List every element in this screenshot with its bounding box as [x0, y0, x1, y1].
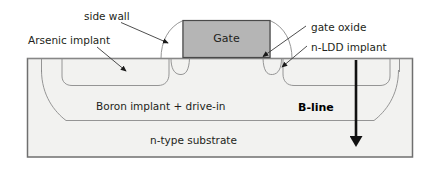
side-wall-label: side wall: [84, 10, 130, 22]
side-wall-right-outer: [270, 21, 292, 59]
side-wall-left-outer: [161, 21, 183, 59]
gate-oxide-label: gate oxide: [311, 21, 366, 33]
boron-implant-label: Boron implant + drive-in: [96, 100, 225, 112]
n-ldd-implant-label: n-LDD implant: [311, 41, 387, 53]
mosfet-cross-section-diagram: Gate side wall Arsenic: [0, 0, 440, 177]
arsenic-implant-label: Arsenic implant: [28, 34, 110, 46]
b-line-label: B-line: [298, 101, 334, 114]
side-wall-leader-line: [121, 23, 168, 44]
side-wall-leader: [121, 23, 168, 44]
gate-label: Gate: [213, 32, 240, 45]
gate-electrode: Gate: [183, 21, 270, 58]
n-type-substrate-label: n-type substrate: [150, 134, 237, 146]
